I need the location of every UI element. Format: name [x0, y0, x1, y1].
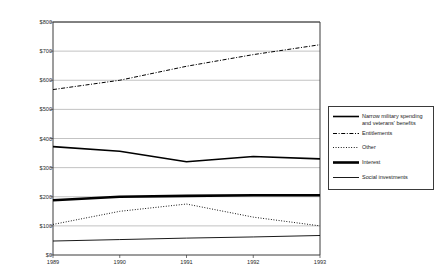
x-axis-tick-label: 1993	[314, 259, 326, 265]
gridlines	[50, 22, 320, 255]
x-axis-tick-labels: 19891990199119921993	[0, 259, 446, 273]
legend-label: Social investments	[362, 173, 408, 181]
legend-swatch-icon	[333, 143, 359, 152]
chart-container: Constant 1992 dollars (in billions) $0$1…	[0, 0, 446, 279]
legend-item-3[interactable]: Interest	[333, 158, 433, 167]
legend-swatch-icon	[333, 112, 359, 121]
x-axis-tick-label: 1989	[47, 259, 59, 265]
series-line-4	[53, 235, 320, 241]
series-line-3	[53, 195, 320, 200]
legend-item-0[interactable]: Narrow military spending and veterans' b…	[333, 112, 433, 127]
x-axis-tick-label: 1991	[180, 259, 192, 265]
data-series-layer	[53, 45, 320, 241]
legend-label: Other	[362, 143, 376, 151]
chart-legend[interactable]: Narrow military spending and veterans' b…	[328, 106, 434, 190]
legend-label: Narrow military spending and veterans' b…	[362, 112, 423, 127]
legend-swatch-icon	[333, 173, 359, 182]
x-axis-tick-label: 1992	[247, 259, 259, 265]
x-axis-tick-label: 1990	[114, 259, 126, 265]
legend-item-1[interactable]: Entitlements	[333, 129, 433, 138]
legend-swatch-icon	[333, 129, 359, 138]
series-line-0	[53, 147, 320, 162]
legend-label: Interest	[362, 158, 380, 166]
series-line-2	[53, 204, 320, 226]
legend-item-2[interactable]: Other	[333, 143, 433, 152]
legend-label: Entitlements	[362, 129, 392, 137]
legend-swatch-icon	[333, 158, 359, 167]
legend-item-4[interactable]: Social investments	[333, 173, 433, 182]
series-line-1	[53, 45, 320, 90]
